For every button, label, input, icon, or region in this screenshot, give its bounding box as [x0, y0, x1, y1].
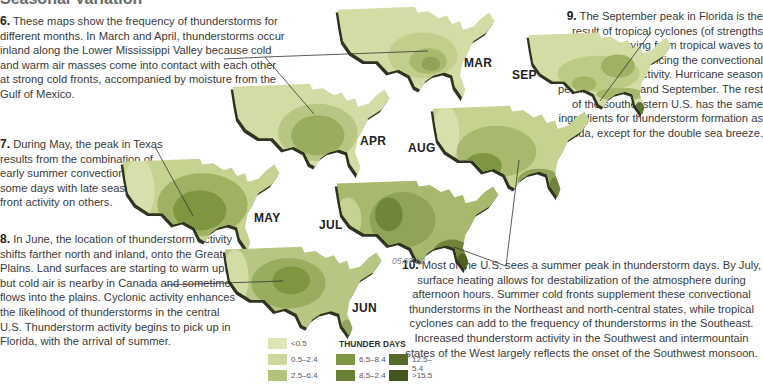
legend-swatch — [268, 354, 287, 365]
paragraph-number: 6. — [0, 14, 10, 28]
map-label-may: MAY — [254, 211, 280, 225]
figure-code: 05.07.b2 — [392, 256, 425, 266]
map-label-july: JUL — [319, 218, 343, 232]
map-label-april: APR — [360, 134, 386, 148]
legend-label: 2.5–6.4 — [291, 371, 318, 380]
legend-swatch — [389, 354, 408, 365]
map-label-september: SEP — [512, 68, 537, 82]
legend-swatch — [268, 338, 287, 349]
paragraph-number: 8. — [0, 232, 10, 246]
paragraph-number: 9. — [567, 9, 577, 23]
legend-label: 6.5–8.4 — [359, 355, 386, 364]
legend-label: <0.5 — [291, 339, 307, 348]
legend-swatch — [389, 370, 408, 381]
section-heading: Seasonal Variation — [0, 0, 142, 8]
map-may — [120, 156, 285, 256]
map-label-march: MAR — [464, 56, 492, 70]
map-label-august: AUG — [408, 141, 436, 155]
legend: THUNDER DAYS <0.5 0.5–2.4 2.5–6.4 6.5–8.… — [266, 338, 416, 384]
map-june — [222, 244, 387, 342]
legend-label: 0.5–2.4 — [291, 355, 318, 364]
paragraph-number: 7. — [0, 137, 10, 151]
map-label-june: JUN — [352, 301, 377, 315]
legend-title: THUNDER DAYS — [339, 339, 406, 349]
legend-label: 8.5–2.4 — [359, 371, 386, 380]
legend-label: >15.5 — [412, 371, 432, 380]
legend-swatch — [268, 370, 287, 381]
legend-swatch — [336, 354, 355, 365]
legend-swatch — [336, 370, 355, 381]
